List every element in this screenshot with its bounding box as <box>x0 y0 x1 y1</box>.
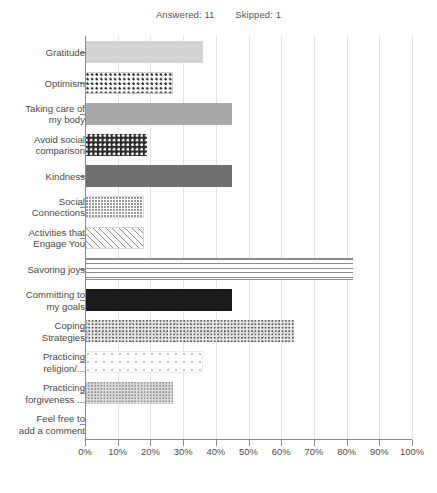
answered-count: Answered: 11 <box>156 9 215 20</box>
survey-bar-chart: Answered: 11 Skipped: 1 0%10%20%30%40%50… <box>0 0 437 493</box>
bar <box>85 134 147 156</box>
category-label: Savoring joys <box>0 264 85 275</box>
bar <box>85 103 232 125</box>
bar-rows <box>85 36 412 440</box>
bar <box>85 320 294 342</box>
x-axis-tick-label: 60% <box>272 446 291 457</box>
bar-row <box>85 222 412 253</box>
category-label: Feel free to add a comment <box>0 413 85 436</box>
bar <box>85 258 353 280</box>
bar-row <box>85 347 412 378</box>
x-axis-tick-label: 30% <box>174 446 193 457</box>
bar <box>85 351 203 373</box>
category-label: Taking care of my body <box>0 102 85 125</box>
plot-area <box>85 36 412 440</box>
x-axis-tick-label: 0% <box>78 446 92 457</box>
bar-row <box>85 285 412 316</box>
skipped-count: Skipped: 1 <box>235 9 281 20</box>
bar-row <box>85 378 412 409</box>
bar-row <box>85 316 412 347</box>
x-axis-tick-label: 80% <box>337 446 356 457</box>
x-axis-tick-label: 10% <box>108 446 127 457</box>
category-label: Gratitude <box>0 46 85 57</box>
category-label: Activities that Engage You <box>0 227 85 250</box>
category-label: Practicing religion/... <box>0 351 85 374</box>
bar <box>85 227 144 249</box>
x-axis-tick-label: 40% <box>206 446 225 457</box>
bar-row <box>85 254 412 285</box>
bar-row <box>85 98 412 129</box>
x-axis-tick-label: 90% <box>370 446 389 457</box>
category-label: Coping Strategies <box>0 320 85 343</box>
x-axis-tick-label: 20% <box>141 446 160 457</box>
gridline-100 <box>412 36 413 440</box>
bar-row <box>85 67 412 98</box>
bar <box>85 196 144 218</box>
response-summary: Answered: 11 Skipped: 1 <box>0 9 437 20</box>
category-label: Kindness <box>0 170 85 181</box>
bar <box>85 289 232 311</box>
bar <box>85 382 173 404</box>
category-label: Social Connections <box>0 195 85 218</box>
bar-row <box>85 191 412 222</box>
category-label: Optimism <box>0 77 85 88</box>
bar <box>85 72 173 94</box>
x-axis-tick-label: 70% <box>305 446 324 457</box>
category-label: Committing to my goals <box>0 289 85 312</box>
x-axis-tick-label: 100% <box>400 446 424 457</box>
bar <box>85 165 232 187</box>
category-label: Practicing forgiveness ... <box>0 382 85 405</box>
bar <box>85 41 203 63</box>
x-axis-tick-labels: 0%10%20%30%40%50%60%70%80%90%100% <box>0 446 437 466</box>
bar-row <box>85 129 412 160</box>
bar-row <box>85 36 412 67</box>
bar-row <box>85 160 412 191</box>
x-axis-tick-label: 50% <box>239 446 258 457</box>
category-label: Avoid social comparison <box>0 133 85 156</box>
y-axis-line <box>85 36 86 440</box>
bar-row <box>85 409 412 440</box>
